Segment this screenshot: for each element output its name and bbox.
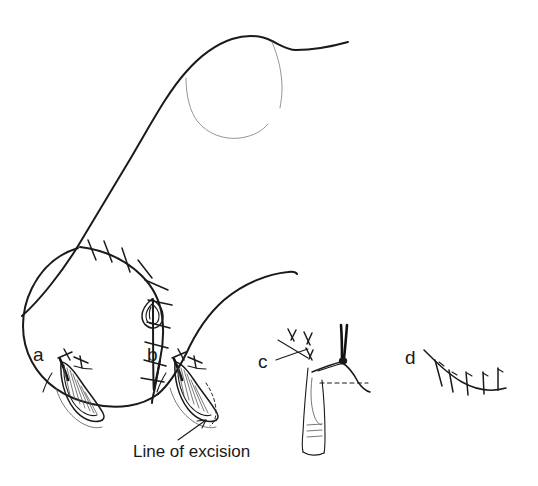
- suture-mark: [483, 372, 484, 394]
- caption-line-of-excision: Line of excision: [133, 443, 250, 460]
- panel-letter-d: d: [405, 348, 416, 367]
- panel-b-skin-edge-right: [188, 366, 206, 369]
- panel-c-drawing: [276, 325, 370, 455]
- inframammary-fold: [158, 272, 297, 394]
- panel-c-forceps-icon: [339, 325, 347, 364]
- panel-c-finger-tip: [303, 452, 324, 455]
- suture-mark: [104, 241, 112, 262]
- panel-a-tissue-hatching: [64, 368, 97, 414]
- panel-letter-b: b: [147, 345, 158, 364]
- crease: [307, 430, 322, 431]
- arrow-shaft: [178, 420, 206, 440]
- panel-d-closed-suture-line: [424, 350, 506, 390]
- suture-mark-tick: [467, 373, 472, 376]
- crease: [307, 424, 322, 425]
- suture-mark-tick: [452, 372, 457, 375]
- panel-a-skin-edge-right: [74, 366, 92, 369]
- panel-d-drawing: [424, 350, 506, 395]
- panel-c-finger-outline-right: [322, 380, 325, 453]
- dog-ear-crease: [149, 307, 151, 319]
- panel-a-suture-thread: [80, 356, 82, 368]
- suture-mark: [449, 370, 453, 392]
- panel-letter-a: a: [33, 345, 44, 364]
- panel-b-skin-edge-left: [157, 373, 166, 392]
- arm-inner-line-faint: [272, 42, 282, 108]
- illustration-canvas: [0, 0, 538, 486]
- shoulder-top-contour: [22, 36, 348, 316]
- panel-letter-c: c: [258, 352, 268, 371]
- suture-mark: [466, 372, 468, 395]
- panel-b-suture-thread: [194, 356, 196, 368]
- panel-c-nail-outline: [311, 378, 322, 425]
- panel-c-knuckle-creases: [307, 424, 322, 437]
- panel-c-skin-line: [278, 340, 308, 358]
- surgical-illustration-figure: a b c d Line of excision: [0, 0, 538, 486]
- panel-a-drawing: [43, 349, 104, 428]
- main-figure-outline: [22, 36, 348, 407]
- suture-mark: [122, 248, 130, 272]
- panel-c-finger-outline-left: [302, 368, 308, 452]
- panel-a-suture-thread: [58, 352, 72, 358]
- panel-b-tissue-hatching: [178, 368, 208, 413]
- panel-b-excision-arrow: [178, 420, 206, 440]
- panel-c-tented-tissue: [312, 362, 370, 392]
- forceps-limb-right: [344, 325, 347, 358]
- panel-b-drawing: [157, 349, 218, 440]
- crease: [307, 436, 322, 437]
- forceps-limb-left: [341, 325, 342, 359]
- axilla-crease-faint: [186, 78, 268, 138]
